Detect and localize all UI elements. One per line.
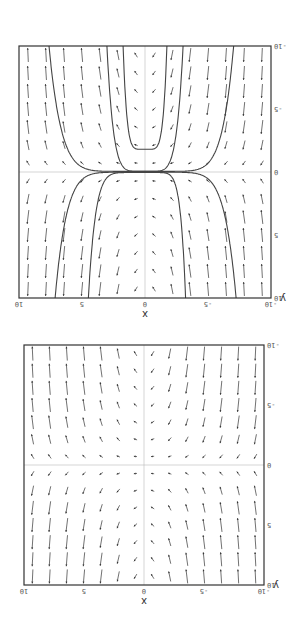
y-axis-label: y: [280, 293, 286, 304]
field-arrow: [26, 120, 28, 134]
field-arrow: [134, 216, 137, 218]
field-arrow: [98, 247, 101, 258]
field-arrow: [189, 196, 192, 201]
field-arrow: [45, 246, 47, 260]
field-arrow: [207, 142, 210, 148]
field-arrow: [45, 84, 47, 98]
figure-stage: -10-50510-10-50510xy -10-50510-10-50510x…: [0, 0, 305, 628]
field-arrow: [26, 194, 29, 204]
field-arrow: [170, 162, 173, 164]
field-arrow: [134, 162, 137, 164]
field-arrow: [243, 246, 245, 260]
field-arrow: [117, 106, 120, 112]
field-arrow: [243, 161, 246, 165]
field-arrow: [98, 85, 101, 96]
field-arrow: [188, 123, 191, 130]
direction-field-plot-2: -10-50510-10-50510xy: [0, 0, 305, 628]
field-arrow: [206, 84, 208, 98]
field-arrow: [44, 195, 47, 204]
field-arrow: [80, 162, 83, 165]
field-arrow: [98, 123, 101, 130]
field-arrow: [243, 264, 245, 278]
field-arrow: [206, 229, 209, 241]
field-arrow: [170, 197, 173, 201]
field-arrow: [242, 195, 245, 204]
field-arrow: [81, 142, 84, 148]
field-arrow: [225, 84, 227, 98]
field-arrow: [225, 48, 227, 62]
field-arrow: [45, 66, 47, 80]
field-arrow: [152, 89, 155, 93]
field-arrow: [98, 66, 101, 79]
field-arrow: [224, 161, 227, 165]
field-arrow: [170, 87, 173, 95]
field-arrow: [261, 282, 263, 296]
field-arrow: [261, 48, 263, 62]
field-arrow: [134, 198, 137, 200]
field-arrow: [188, 213, 191, 220]
field-arrow: [45, 282, 47, 296]
plot-2-svg: -10-50510-10-50510xy: [0, 0, 305, 628]
field-arrow: [81, 264, 83, 278]
field-arrow: [260, 140, 263, 150]
y-tick-label: 5: [274, 231, 278, 239]
field-arrow: [134, 126, 137, 128]
field-arrow: [98, 104, 101, 113]
y-tick-label: -10: [274, 42, 287, 50]
field-arrow: [207, 66, 209, 80]
field-arrow: [188, 282, 190, 296]
field-arrow: [63, 84, 65, 98]
field-arrow: [261, 246, 263, 260]
field-arrow: [152, 126, 155, 128]
field-arrow: [44, 210, 47, 223]
field-arrow: [81, 282, 83, 296]
field-arrow: [207, 196, 210, 202]
field-arrow: [27, 66, 29, 80]
field-arrow: [62, 121, 65, 132]
field-arrow: [261, 179, 264, 184]
field-arrow: [116, 180, 119, 182]
field-arrow: [152, 144, 155, 146]
field-arrow: [152, 234, 155, 237]
field-arrow: [81, 66, 83, 80]
field-arrow: [188, 66, 191, 79]
field-arrow: [27, 161, 30, 166]
field-arrow: [45, 161, 48, 165]
field-arrow: [80, 212, 83, 221]
field-arrow: [153, 287, 156, 292]
field-arrow: [206, 246, 208, 260]
field-arrow: [170, 284, 173, 294]
field-arrow: [261, 102, 263, 116]
field-arrow: [116, 267, 119, 276]
field-arrow: [45, 102, 47, 116]
field-arrow: [170, 50, 173, 60]
field-arrow: [98, 180, 101, 182]
field-arrow: [135, 53, 138, 58]
field-arrow: [242, 210, 245, 223]
field-arrow: [152, 216, 155, 218]
field-arrow: [62, 211, 65, 222]
field-arrow: [260, 210, 262, 224]
field-arrow: [242, 141, 245, 150]
field-arrow: [27, 179, 30, 184]
field-arrow: [189, 142, 192, 147]
field-arrow: [98, 162, 101, 164]
solution-curve-branch: [145, 20, 236, 171]
field-arrow: [26, 210, 28, 224]
field-arrow: [188, 104, 191, 113]
field-arrow: [188, 85, 191, 96]
field-arrow: [81, 196, 84, 202]
field-arrow: [135, 287, 138, 292]
field-arrow: [225, 282, 227, 296]
x-tick-label: -5: [204, 300, 212, 308]
field-arrow: [116, 87, 119, 95]
field-arrow: [206, 103, 209, 115]
field-arrow: [224, 121, 227, 132]
field-arrow: [261, 228, 263, 242]
field-arrow: [134, 251, 137, 255]
field-arrow: [116, 249, 119, 257]
solution-curve-branch: [47, 20, 145, 171]
field-arrow: [261, 264, 263, 278]
field-arrow: [224, 195, 227, 203]
field-arrow: [80, 84, 82, 98]
